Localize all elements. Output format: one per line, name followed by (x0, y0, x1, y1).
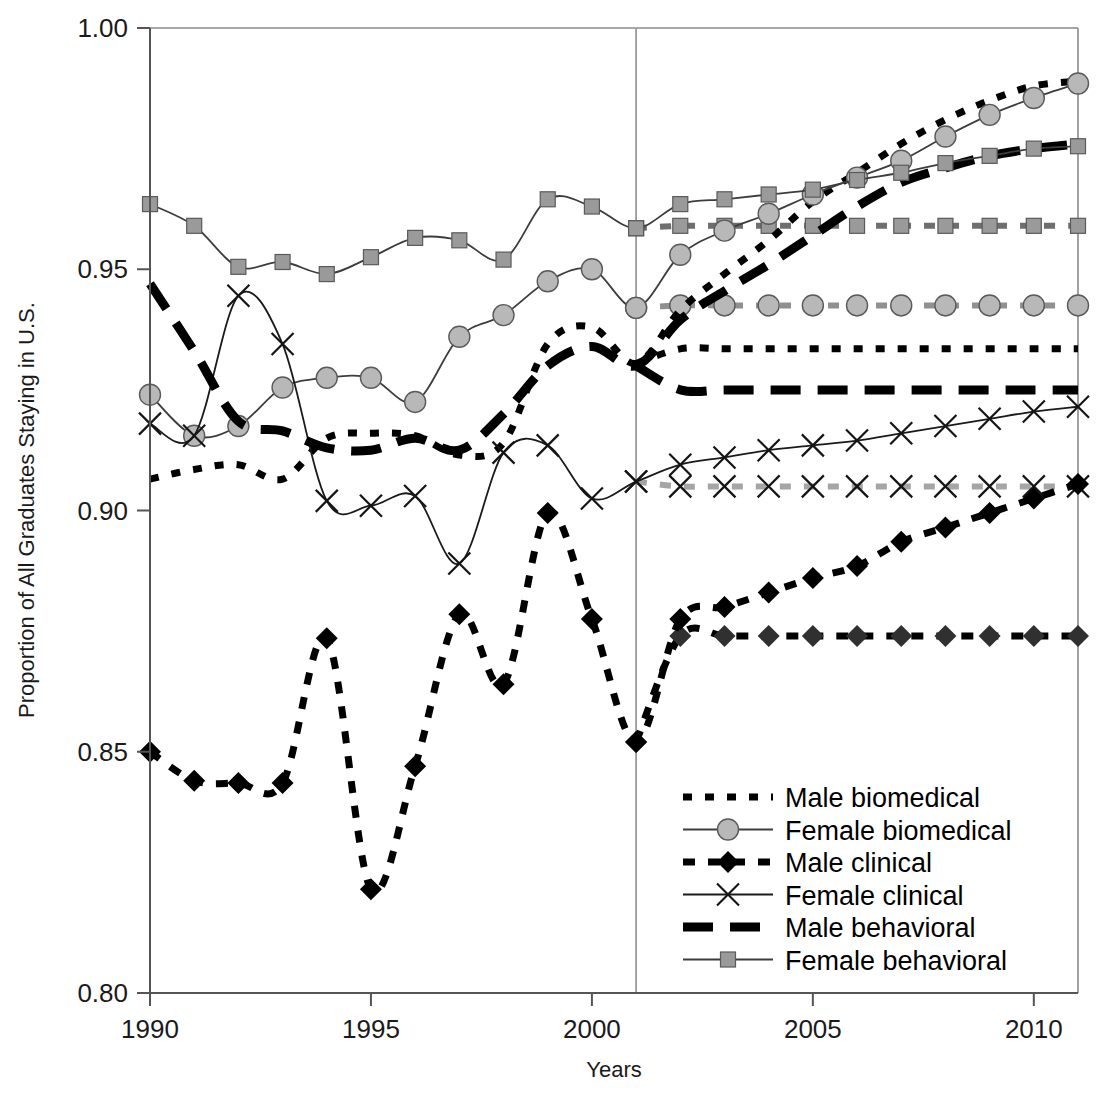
data-point-marker (449, 326, 470, 347)
legend-item-female-biomedical[interactable]: Female biomedical (683, 816, 1012, 846)
series-male-biomedical-projected-flat (636, 348, 1078, 364)
data-point-marker (1067, 625, 1089, 647)
x-axis-title: Years (586, 1057, 641, 1082)
data-point-marker (938, 218, 953, 233)
x-tick-label: 2010 (1005, 1014, 1063, 1044)
data-point-marker (448, 603, 470, 625)
data-point-marker (404, 485, 426, 507)
data-point-marker (540, 192, 555, 207)
series-female-behavioral (143, 139, 1086, 282)
data-point-marker (1023, 625, 1045, 647)
data-point-marker (1067, 473, 1089, 495)
data-point-marker (802, 295, 823, 316)
chart-legend: Male biomedicalFemale biomedicalMale cli… (683, 783, 1012, 976)
data-point-marker (761, 187, 776, 202)
data-point-marker (625, 731, 647, 753)
data-point-marker (979, 104, 1000, 125)
data-point-marker (360, 495, 382, 517)
data-point-marker (802, 625, 824, 647)
data-point-marker (405, 391, 426, 412)
data-point-marker (1023, 87, 1044, 108)
y-tick-label: 1.00 (77, 13, 128, 43)
data-point-marker (1068, 73, 1089, 94)
data-point-marker (227, 772, 249, 794)
data-point-marker (363, 250, 378, 265)
data-point-marker (934, 516, 956, 538)
legend-label: Male behavioral (785, 913, 976, 943)
legend-item-female-behavioral[interactable]: Female behavioral (683, 946, 1007, 976)
legend-item-female-clinical[interactable]: Female clinical (683, 881, 964, 911)
data-point-marker (319, 267, 334, 282)
data-point-marker (713, 596, 735, 618)
data-point-marker (979, 295, 1000, 316)
data-point-marker (979, 502, 1001, 524)
data-point-marker (537, 271, 558, 292)
legend-label: Male biomedical (785, 783, 980, 813)
series-male-behavioral-projected-flat (636, 366, 1078, 392)
data-point-marker (452, 233, 467, 248)
data-point-marker (581, 608, 603, 630)
data-point-marker (626, 297, 647, 318)
legend-label: Female clinical (785, 881, 964, 911)
data-point-marker (890, 625, 912, 647)
data-point-marker (231, 259, 246, 274)
data-point-marker (713, 625, 735, 647)
data-point-marker (404, 755, 426, 777)
data-point-marker (1026, 218, 1041, 233)
data-point-marker (846, 475, 868, 497)
legend-item-male-biomedical[interactable]: Male biomedical (683, 783, 980, 813)
data-point-marker (493, 305, 514, 326)
data-point-marker (272, 377, 293, 398)
legend-marker (717, 851, 739, 873)
data-point-marker (493, 442, 515, 464)
legend-item-male-clinical[interactable]: Male clinical (683, 848, 932, 878)
legend-marker (721, 952, 736, 967)
data-point-marker (982, 218, 997, 233)
series-layer (139, 73, 1089, 900)
data-point-marker (408, 230, 423, 245)
data-point-marker (581, 487, 603, 509)
series-line (636, 366, 1078, 392)
data-point-marker (1071, 218, 1086, 233)
series-female-clinical-projected-flat (625, 471, 1089, 498)
data-point-marker (713, 446, 735, 468)
data-point-marker (758, 295, 779, 316)
data-point-marker (272, 772, 294, 794)
legend-label: Female behavioral (785, 946, 1007, 976)
data-point-marker (448, 553, 470, 575)
data-point-marker (846, 625, 868, 647)
data-point-marker (758, 625, 780, 647)
data-point-marker (669, 454, 691, 476)
series-female-biomedical-projected-flat (626, 295, 1089, 318)
data-point-marker (934, 415, 956, 437)
legend-marker (718, 819, 739, 840)
data-point-marker (360, 367, 381, 388)
series-line (636, 348, 1078, 364)
data-point-marker (935, 126, 956, 147)
legend-label: Male clinical (785, 848, 932, 878)
data-point-marker (982, 148, 997, 163)
data-point-marker (584, 199, 599, 214)
y-tick-label: 0.80 (77, 978, 128, 1008)
y-axis-title: Proportion of All Graduates Staying in U… (14, 302, 39, 718)
data-point-marker (979, 408, 1001, 430)
data-point-marker (894, 218, 909, 233)
data-point-marker (316, 367, 337, 388)
data-point-marker (847, 295, 868, 316)
x-tick-label: 1995 (342, 1014, 400, 1044)
data-point-marker (496, 252, 511, 267)
series-female-behavioral-projected-flat (629, 218, 1086, 235)
data-point-marker (1068, 295, 1089, 316)
plot-frame (150, 28, 1078, 993)
x-tick-label: 2000 (563, 1014, 621, 1044)
y-tick-label: 0.90 (77, 496, 128, 526)
data-point-marker (227, 285, 249, 307)
data-point-marker (673, 218, 688, 233)
axis-layer (137, 28, 1078, 1006)
legend-item-male-behavioral[interactable]: Male behavioral (683, 913, 976, 943)
data-point-marker (1071, 139, 1086, 154)
data-point-marker (1023, 487, 1045, 509)
data-point-marker (1026, 141, 1041, 156)
data-point-marker (717, 192, 732, 207)
data-point-marker (938, 156, 953, 171)
